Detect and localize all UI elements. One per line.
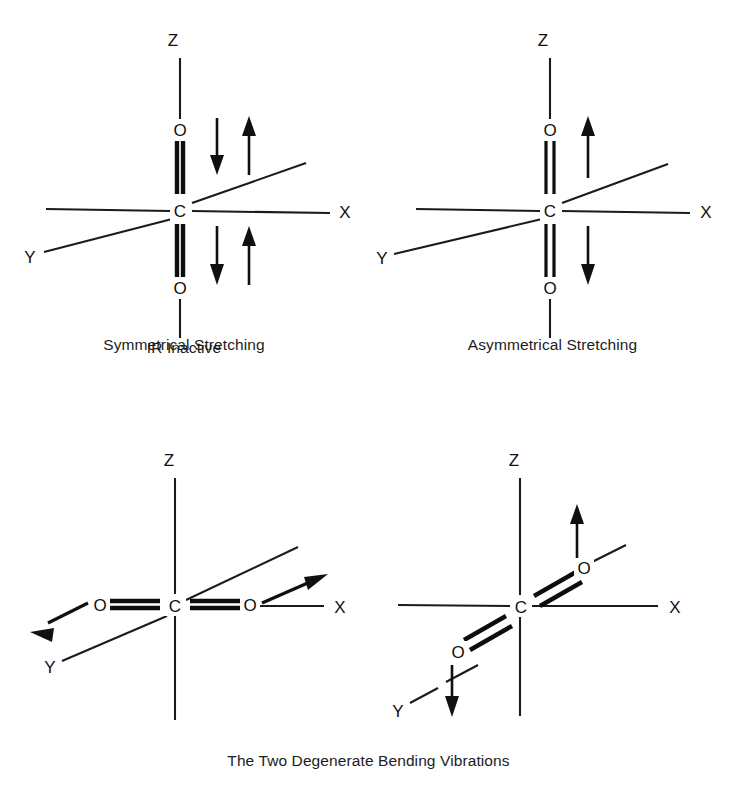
- bond-upper-a: [534, 572, 576, 596]
- oxygen-top-label: O: [173, 121, 186, 140]
- oxygen-left-label: O: [93, 596, 106, 615]
- arrow-left-oxygen-down-left: [30, 603, 88, 642]
- arrow-right-oxygen-up-right: [262, 574, 328, 603]
- y-axis-line-upper-right: [562, 164, 668, 203]
- y-axis-line-upper-right: [590, 545, 626, 563]
- arrow-top-down: [210, 118, 224, 175]
- arrow-upper-oxygen-up: [570, 504, 584, 558]
- y-axis-label: Y: [376, 249, 387, 268]
- y-axis-label: Y: [44, 658, 55, 677]
- oxygen-top-label: O: [543, 121, 556, 140]
- x-axis-line-right: [192, 211, 330, 213]
- x-axis-line-left: [398, 605, 510, 606]
- arrow-bottom-up: [242, 226, 256, 285]
- arrow-top-up: [581, 116, 595, 178]
- y-axis-label: Y: [24, 248, 35, 267]
- oxygen-right-label: O: [243, 596, 256, 615]
- arrow-bottom-down: [581, 226, 595, 285]
- arrow-top-up: [242, 116, 256, 175]
- x-axis-line-right: [562, 211, 690, 213]
- bond-lower-a: [464, 616, 506, 640]
- y-axis-line-upper-right: [186, 547, 298, 600]
- asymmetrical-stretching-diagram: Z X Y O O C: [368, 0, 737, 340]
- panel-symmetrical-stretching: Z X Y O O C: [0, 0, 368, 420]
- panel-bending-out-of-plane: Z X Y O O C: [368, 420, 737, 730]
- carbon-label: C: [515, 598, 527, 617]
- y-axis-line-lower-left: [62, 616, 167, 661]
- x-axis-line-left: [46, 209, 170, 211]
- caption-line-2: IR Inactive: [0, 339, 368, 357]
- panel-asymmetrical-stretching: Z X Y O O C: [368, 0, 737, 420]
- caption-symmetrical-stretching: Symmetrical Stretching IR Inactive: [0, 336, 368, 357]
- x-axis-label: X: [334, 598, 345, 617]
- x-axis-label: X: [339, 203, 350, 222]
- y-axis-line-lower-left: [44, 219, 172, 252]
- bending-out-of-plane-diagram: Z X Y O O C: [368, 420, 737, 730]
- figure-root: Z X Y O O C: [0, 0, 737, 794]
- bond-upper-b: [540, 582, 582, 606]
- bending-in-plane-diagram: Z X Y O O C: [0, 420, 368, 730]
- oxygen-upper-label: O: [577, 559, 590, 578]
- carbon-label: C: [544, 202, 556, 221]
- oxygen-bottom-label: O: [543, 279, 556, 298]
- bond-lower-b: [470, 626, 512, 650]
- caption-line-1: Asymmetrical Stretching: [368, 336, 737, 354]
- z-axis-label: Z: [509, 451, 519, 470]
- x-axis-label: X: [700, 203, 711, 222]
- arrow-lower-oxygen-down: [445, 665, 459, 717]
- panel-bending-in-plane: Z X Y O O C: [0, 420, 368, 730]
- x-axis-label: X: [669, 598, 680, 617]
- carbon-label: C: [174, 202, 186, 221]
- y-axis-line-lower-left: [410, 688, 438, 703]
- y-axis-line-lower-left: [394, 219, 542, 254]
- bottom-caption: The Two Degenerate Bending Vibrations: [0, 752, 737, 770]
- symmetrical-stretching-diagram: Z X Y O O C: [0, 0, 368, 340]
- oxygen-bottom-label: O: [173, 279, 186, 298]
- oxygen-lower-label: O: [451, 643, 464, 662]
- carbon-label: C: [169, 597, 181, 616]
- arrow-bottom-down: [210, 226, 224, 285]
- z-axis-label: Z: [168, 31, 178, 50]
- z-axis-label: Z: [538, 31, 548, 50]
- z-axis-label: Z: [164, 451, 174, 470]
- x-axis-line-left: [416, 209, 540, 211]
- y-axis-label: Y: [392, 702, 403, 721]
